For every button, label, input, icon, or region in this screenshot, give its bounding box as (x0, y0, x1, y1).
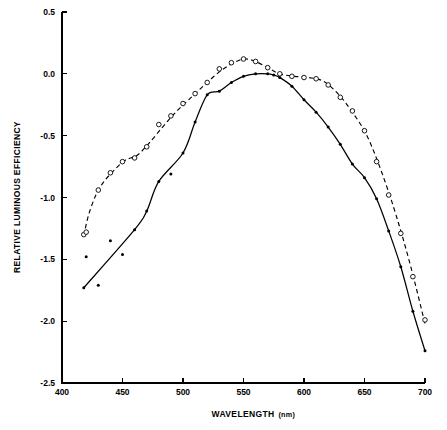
data-point-filled-dot (85, 255, 88, 258)
solid-curve-line (84, 74, 425, 351)
data-point-open-circle (399, 231, 404, 236)
x-axis-unit-label: (nm) (278, 410, 295, 419)
data-point-filled-dot (290, 85, 293, 88)
axis-titles: WAVELENGTH (nm) RELATIVE LUMINOUS EFFICI… (12, 121, 295, 419)
y-tick-label: 0.5 (43, 7, 55, 17)
data-point-filled-dot (399, 265, 402, 268)
data-point-filled-dot (387, 229, 390, 232)
y-tick-label: -0.5 (40, 131, 55, 141)
y-axis-title: RELATIVE LUMINOUS EFFICIENCY (12, 121, 22, 273)
data-point-filled-dot (272, 74, 275, 77)
data-point-filled-dot (109, 239, 112, 242)
data-point-filled-dot (206, 93, 209, 96)
y-tick-label: -2.5 (40, 378, 55, 388)
data-point-filled-dot (121, 253, 124, 256)
dashed-curve-line (84, 59, 425, 324)
data-point-filled-dot (266, 72, 269, 75)
series-solid-group (82, 72, 426, 352)
series-dashed-group (81, 57, 427, 324)
x-tick-label: 650 (357, 387, 371, 397)
data-point-filled-dot (194, 121, 197, 124)
data-point-filled-dot (327, 126, 330, 129)
data-point-filled-dot (145, 210, 148, 213)
x-tick-label: 600 (297, 387, 311, 397)
data-point-filled-dot (169, 173, 172, 176)
data-point-open-circle (411, 274, 416, 279)
data-point-filled-dot (424, 349, 427, 352)
y-axis-ticks (62, 12, 67, 383)
x-axis-tick-labels: 400450500550600650700 (55, 387, 432, 397)
data-point-filled-dot (315, 111, 318, 114)
data-point-filled-dot (182, 151, 185, 154)
data-point-open-circle (108, 170, 113, 175)
data-point-open-circle (362, 128, 367, 133)
data-point-open-circle (302, 75, 307, 80)
x-axis-title: WAVELENGTH (212, 409, 275, 419)
data-point-open-circle (157, 122, 162, 127)
x-tick-label: 550 (236, 387, 250, 397)
figure-container: 400450500550600650700 0.50.0-0.5-1.0-1.5… (0, 0, 447, 430)
data-point-open-circle (132, 156, 137, 161)
open-circle-markers (81, 57, 427, 323)
y-tick-label: -1.0 (40, 193, 55, 203)
data-point-open-circle (265, 65, 270, 70)
data-point-filled-dot (82, 286, 85, 289)
y-tick-label: -1.5 (40, 254, 55, 264)
data-point-open-circle (229, 60, 234, 65)
data-point-filled-dot (157, 180, 160, 183)
data-point-filled-dot (218, 90, 221, 93)
data-point-open-circle (338, 95, 343, 100)
y-tick-label: -2.0 (40, 316, 55, 326)
data-point-open-circle (253, 59, 258, 64)
data-point-open-circle (181, 101, 186, 106)
filled-dot-markers (82, 72, 426, 352)
data-point-open-circle (84, 230, 89, 235)
data-point-filled-dot (339, 143, 342, 146)
data-point-filled-dot (303, 98, 306, 101)
data-point-open-circle (217, 67, 222, 72)
data-point-open-circle (314, 76, 319, 81)
data-point-filled-dot (375, 197, 378, 200)
x-tick-label: 700 (418, 387, 432, 397)
axis-frame (62, 12, 425, 383)
axis-frame-lines (62, 12, 425, 383)
data-point-open-circle (423, 318, 428, 323)
data-point-filled-dot (97, 284, 100, 287)
data-point-open-circle (169, 114, 174, 119)
data-point-open-circle (120, 159, 125, 164)
data-point-filled-dot (254, 72, 257, 75)
y-tick-label: 0.0 (43, 69, 55, 79)
data-point-filled-dot (411, 310, 414, 313)
data-point-open-circle (278, 72, 283, 77)
data-point-open-circle (144, 145, 149, 150)
x-tick-label: 450 (115, 387, 129, 397)
data-point-open-circle (374, 159, 379, 164)
data-point-open-circle (96, 188, 101, 193)
data-point-filled-dot (133, 228, 136, 231)
data-point-open-circle (350, 109, 355, 114)
x-tick-label: 500 (176, 387, 190, 397)
x-axis-ticks (62, 378, 425, 383)
data-point-open-circle (290, 74, 295, 79)
data-point-open-circle (326, 83, 331, 88)
x-tick-label: 400 (55, 387, 69, 397)
chart-canvas: 400450500550600650700 0.50.0-0.5-1.0-1.5… (0, 0, 447, 430)
data-point-open-circle (205, 80, 210, 85)
data-point-filled-dot (351, 163, 354, 166)
data-point-filled-dot (278, 76, 281, 79)
data-point-filled-dot (242, 75, 245, 78)
data-point-open-circle (193, 91, 198, 96)
y-axis-tick-labels: 0.50.0-0.5-1.0-1.5-2.0-2.5 (40, 7, 55, 388)
data-point-open-circle (386, 193, 391, 198)
data-point-open-circle (241, 57, 246, 62)
data-point-filled-dot (363, 176, 366, 179)
data-point-filled-dot (230, 81, 233, 84)
